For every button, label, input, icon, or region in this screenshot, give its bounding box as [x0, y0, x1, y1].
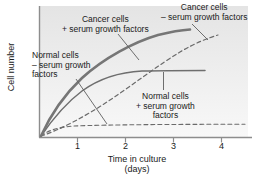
label-cancer-plus-serum: Cancer cells + serum growth factors: [62, 15, 149, 34]
label-cancer-minus-serum-line2: – serum growth factors: [161, 13, 247, 23]
x-tick-label-2: 2: [118, 141, 134, 151]
x-tick-label-1: 1: [70, 141, 86, 151]
label-normal-minus-serum: Normal cells – serum growth factors: [32, 51, 91, 80]
label-normal-plus-serum-line3: factors: [136, 111, 195, 121]
x-axis-title-units: (days): [77, 164, 197, 174]
x-tick-label-3: 3: [166, 141, 182, 151]
figure-container: Cell number Time in culture (days) 1 2 3…: [0, 0, 268, 191]
x-tick-label-4: 4: [214, 141, 230, 151]
y-axis-title: Cell number: [6, 37, 16, 97]
x-axis-title-main: Time in culture: [108, 154, 167, 164]
label-cancer-minus-serum: Cancer cells – serum growth factors: [161, 3, 247, 22]
x-axis-title: Time in culture (days): [77, 154, 197, 174]
x-axis-ticks: [78, 138, 222, 143]
label-cancer-plus-serum-line2: + serum growth factors: [62, 25, 149, 35]
label-normal-plus-serum: Normal cells + serum growth factors: [136, 92, 195, 121]
label-normal-minus-serum-line3: factors: [32, 70, 91, 80]
